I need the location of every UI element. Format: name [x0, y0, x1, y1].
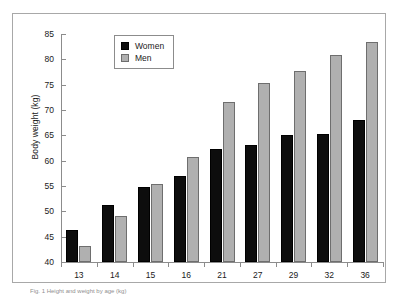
y-axis-tick: 70: [61, 110, 66, 111]
y-axis-tick: 75: [61, 85, 66, 86]
plot-frame: Body weight (kg) 40455055606570758085 13…: [12, 13, 386, 283]
y-axis-tick-label: 75: [45, 80, 54, 90]
y-axis-tick-label: 45: [45, 232, 54, 242]
bar-women-16: [174, 176, 186, 262]
bar-women-32: [317, 134, 329, 262]
x-axis-tick-label: 15: [146, 270, 155, 280]
x-axis-tick-label: 32: [325, 270, 334, 280]
legend-label-women: Women: [135, 41, 164, 51]
x-axis-tick: [276, 262, 277, 267]
bar-men-14: [115, 216, 127, 262]
bar-men-16: [187, 157, 199, 262]
y-axis-tick-label: 55: [45, 181, 54, 191]
x-axis-tick-label: 21: [217, 270, 226, 280]
y-axis-tick: 60: [61, 161, 66, 162]
bar-men-29: [294, 71, 306, 262]
bar-women-15: [138, 187, 150, 262]
y-axis-tick-label: 80: [45, 54, 54, 64]
legend-swatch-men-icon: [121, 54, 129, 62]
bar-women-14: [102, 205, 114, 262]
y-axis-tick-label: 85: [45, 29, 54, 39]
bar-women-27: [245, 145, 257, 262]
x-axis-tick-label: 13: [74, 270, 83, 280]
chart-legend: Women Men: [114, 35, 174, 69]
x-axis-tick: [168, 262, 169, 267]
x-axis-tick-label: 36: [360, 270, 369, 280]
y-axis-tick-label: 65: [45, 130, 54, 140]
bar-men-21: [223, 102, 235, 262]
figure-container: Body weight (kg) 40455055606570758085 13…: [0, 0, 396, 300]
y-axis-tick-label: 40: [45, 257, 54, 267]
y-axis-tick: 45: [61, 237, 66, 238]
x-axis-tick: [240, 262, 241, 267]
x-axis-tick: [97, 262, 98, 267]
x-axis-tick: [61, 262, 62, 267]
figure-caption: Fig. 1 Height and weight by age (kg): [30, 288, 370, 294]
y-axis-tick: 65: [61, 135, 66, 136]
bar-men-36: [366, 42, 378, 262]
y-axis-tick: 55: [61, 186, 66, 187]
x-axis-tick-label: 29: [289, 270, 298, 280]
bar-women-29: [281, 135, 293, 262]
x-axis-tick-label: 27: [253, 270, 262, 280]
legend-item-men: Men: [121, 52, 164, 64]
plot-area: 40455055606570758085 131415162127293236: [61, 34, 383, 262]
bar-men-15: [151, 184, 163, 262]
legend-label-men: Men: [135, 53, 152, 63]
x-axis-tick: [133, 262, 134, 267]
x-axis-tick: [204, 262, 205, 267]
y-axis-tick-label: 70: [45, 105, 54, 115]
bar-women-21: [210, 149, 222, 262]
y-axis-title: Body weight (kg): [30, 67, 40, 187]
y-axis-tick: 85: [61, 34, 66, 35]
x-axis-tick: [347, 262, 348, 267]
legend-swatch-women-icon: [121, 42, 129, 50]
y-axis-line: [61, 34, 62, 262]
y-axis-tick-label: 60: [45, 156, 54, 166]
bar-men-13: [79, 246, 91, 262]
y-axis-tick-label: 50: [45, 206, 54, 216]
bar-men-27: [258, 83, 270, 262]
x-axis-line: [61, 262, 383, 263]
x-axis-tick: [383, 262, 384, 267]
x-axis-tick-label: 14: [110, 270, 119, 280]
x-axis-tick-label: 16: [181, 270, 190, 280]
bar-women-36: [353, 120, 365, 262]
y-axis-tick: 80: [61, 59, 66, 60]
x-axis-tick: [311, 262, 312, 267]
legend-item-women: Women: [121, 40, 164, 52]
bar-men-32: [330, 55, 342, 262]
bar-women-13: [66, 230, 78, 262]
y-axis-tick: 50: [61, 211, 66, 212]
